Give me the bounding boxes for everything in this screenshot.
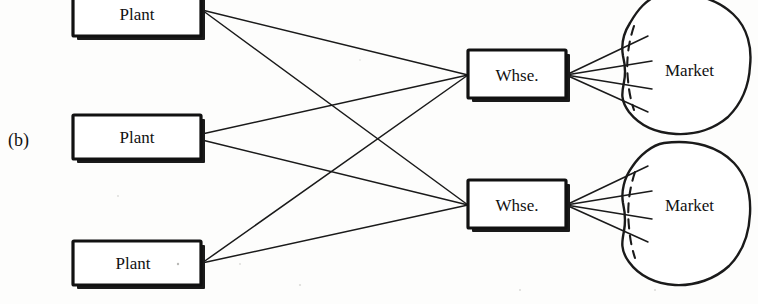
plant-2-label: Plant	[120, 128, 155, 147]
warehouse-1-node: Whse.	[468, 50, 570, 102]
warehouse-1-label: Whse.	[496, 66, 539, 85]
distribution-network-figure: Market Market Plant Plant	[0, 0, 758, 304]
market-2-group: Market	[566, 142, 750, 285]
plant-1-node: Plant	[73, 0, 205, 40]
market-2-label: Market	[665, 196, 714, 215]
link-plant1-warehouse1	[202, 10, 468, 75]
link-plant2-warehouse2	[202, 140, 468, 205]
link-plant3-warehouse1	[202, 75, 468, 263]
diagram-canvas: Market Market Plant Plant	[0, 0, 758, 304]
panel-label: (b)	[8, 130, 29, 151]
warehouse-2-label: Whse.	[496, 196, 539, 215]
plant-3-label: Plant	[116, 254, 151, 273]
plant-1-label: Plant	[120, 5, 155, 24]
market-1-label: Market	[665, 61, 714, 80]
market-1-group: Market	[566, 0, 750, 134]
warehouse-2-node: Whse.	[468, 180, 570, 232]
plant-2-node: Plant	[73, 115, 205, 163]
plant-warehouse-links	[202, 10, 468, 263]
link-plant1-warehouse2	[202, 10, 468, 205]
link-plant2-warehouse1	[202, 75, 468, 134]
plant-3-node: Plant	[73, 241, 205, 289]
